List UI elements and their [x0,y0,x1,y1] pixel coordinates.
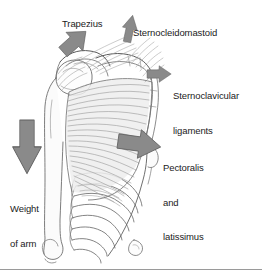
label-sternoclavicular-line2: ligaments [173,125,239,137]
label-sternoclavicular-line1: Sternoclavicular [173,90,239,102]
label-pectoralis-line2: and [163,197,204,209]
label-sternocleidomastoid: Sternocleidomastoid [133,27,217,39]
bone-fragment [129,240,143,255]
anatomical-figure: Trapezius Sternocleidomastoid Sternoclav… [0,0,262,276]
weight-of-arm-arrow [13,120,42,174]
humerus-bone [42,78,63,263]
label-pectoralis-line3: latissimus [163,231,204,243]
label-weight-line2: of arm [10,238,39,250]
label-pectoralis-line1: Pectoralis [163,162,204,174]
label-pectoralis-latissimus: Pectoralis and latissimus [163,139,204,266]
label-weight-of-arm: Weight of arm [10,180,39,272]
label-trapezius: Trapezius [62,18,102,30]
bottom-divider [0,269,262,270]
label-weight-line1: Weight [10,203,39,215]
